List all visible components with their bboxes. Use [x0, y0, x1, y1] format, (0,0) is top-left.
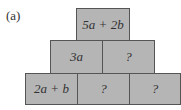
pyramid-cell-bottom-left: 2a + b — [25, 73, 78, 105]
pyramid-cell-bottom-right: ? — [129, 73, 181, 105]
pyramid-cell-bottom-middle: ? — [77, 73, 130, 105]
pyramid-cell-top: 5a + 2b — [76, 8, 130, 41]
pyramid-cell-middle-right: ? — [102, 40, 155, 74]
pyramid-cell-middle-left: 3a — [50, 40, 103, 74]
figure-label: (a) — [6, 8, 20, 24]
